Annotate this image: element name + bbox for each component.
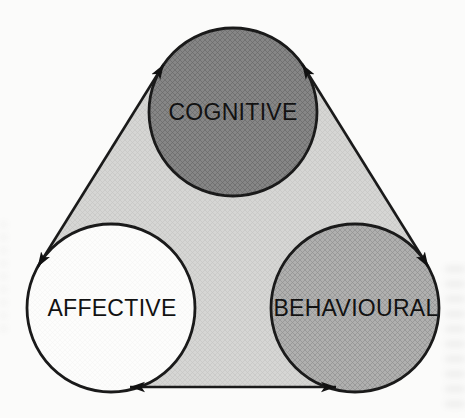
- node-cognitive-label: COGNITIVE: [168, 99, 297, 125]
- triangle-cycle-diagram: COGNITIVE AFFECTIVE BEHAVIOURAL: [0, 0, 465, 418]
- node-affective-label: AFFECTIVE: [47, 295, 176, 321]
- attitude-components-diagram: COGNITIVE AFFECTIVE BEHAVIOURAL: [0, 0, 465, 418]
- node-behavioural-label: BEHAVIOURAL: [273, 295, 438, 321]
